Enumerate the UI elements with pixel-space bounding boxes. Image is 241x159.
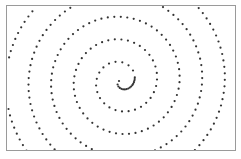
data-point: [177, 62, 179, 64]
data-point: [101, 41, 103, 43]
data-point: [199, 58, 201, 60]
data-point: [223, 92, 225, 94]
data-point: [99, 97, 101, 99]
data-point: [114, 109, 116, 111]
data-point: [202, 139, 204, 141]
data-point: [67, 38, 69, 40]
data-point: [97, 126, 99, 128]
data-point: [98, 72, 100, 74]
data-point: [63, 43, 65, 45]
data-point: [128, 133, 130, 135]
data-point: [194, 109, 196, 111]
data-point: [120, 38, 122, 40]
data-point: [127, 40, 129, 42]
data-point: [64, 10, 66, 12]
data-point: [107, 16, 109, 18]
data-point: [220, 104, 222, 106]
data-point: [81, 57, 83, 59]
data-point: [50, 86, 52, 88]
data-point: [175, 55, 177, 57]
data-point: [82, 25, 84, 27]
data-point: [8, 56, 10, 58]
data-point: [145, 22, 147, 24]
data-point: [73, 75, 75, 77]
data-point: [153, 124, 155, 126]
data-point: [54, 19, 56, 21]
data-point: [150, 97, 152, 99]
data-point: [147, 128, 149, 130]
data-point: [54, 148, 56, 150]
data-point: [33, 115, 35, 117]
data-point: [154, 65, 156, 67]
data-point: [184, 125, 186, 127]
data-point: [180, 130, 182, 132]
data-point: [102, 129, 104, 131]
data-point: [217, 40, 219, 42]
data-point: [35, 121, 37, 123]
data-point: [152, 59, 154, 61]
data-point: [25, 150, 27, 152]
data-point: [172, 50, 174, 52]
data-point: [144, 49, 146, 51]
data-point: [108, 63, 110, 65]
data-point: [53, 105, 55, 107]
data-point: [202, 12, 204, 14]
data-point: [165, 143, 167, 145]
data-point: [151, 26, 153, 28]
data-point: [169, 44, 171, 46]
data-point: [75, 69, 77, 71]
data-point: [114, 38, 116, 40]
data-point: [20, 26, 22, 28]
data-point: [162, 6, 164, 8]
data-point: [160, 146, 162, 148]
data-point: [189, 34, 191, 36]
data-point: [127, 64, 129, 66]
data-point: [94, 20, 96, 22]
data-point: [90, 48, 92, 50]
data-point: [73, 82, 75, 84]
data-point: [192, 39, 194, 41]
data-point: [113, 16, 115, 18]
data-point: [88, 22, 90, 24]
data-point: [156, 29, 158, 31]
data-point: [29, 64, 31, 66]
data-point: [38, 40, 40, 42]
data-point: [91, 122, 93, 124]
data-point: [133, 18, 135, 20]
data-point: [114, 61, 116, 63]
data-point: [200, 90, 202, 92]
data-point: [95, 44, 97, 46]
data-point: [153, 91, 155, 93]
data-point: [36, 46, 38, 48]
data-point: [172, 14, 174, 16]
data-point: [27, 15, 29, 17]
data-point: [178, 88, 180, 90]
data-point: [74, 95, 76, 97]
data-point: [141, 130, 143, 132]
data-point: [10, 50, 12, 52]
data-point: [174, 100, 176, 102]
data-point: [186, 28, 188, 30]
data-point: [96, 78, 98, 80]
data-point: [158, 121, 160, 123]
data-point: [85, 145, 87, 147]
data-point: [209, 23, 211, 25]
data-point: [50, 24, 52, 26]
data-point: [57, 54, 59, 56]
data-point: [155, 85, 157, 87]
data-point: [188, 120, 190, 122]
data-point: [28, 90, 30, 92]
data-point: [216, 117, 218, 119]
data-point: [103, 102, 105, 104]
data-point: [134, 109, 136, 111]
data-point: [134, 76, 136, 78]
data-point: [223, 85, 225, 87]
data-point: [77, 63, 79, 65]
data-point: [224, 72, 226, 74]
data-point: [197, 103, 199, 105]
data-point: [126, 16, 128, 18]
data-point: [222, 59, 224, 61]
data-point: [28, 77, 30, 79]
data-point: [161, 34, 163, 36]
data-point: [178, 68, 180, 70]
